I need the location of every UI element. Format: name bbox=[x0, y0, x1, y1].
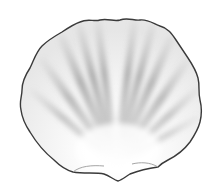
image-canvas: scallop shell bbox=[0, 0, 218, 191]
scallop-shell-illustration bbox=[0, 0, 218, 191]
